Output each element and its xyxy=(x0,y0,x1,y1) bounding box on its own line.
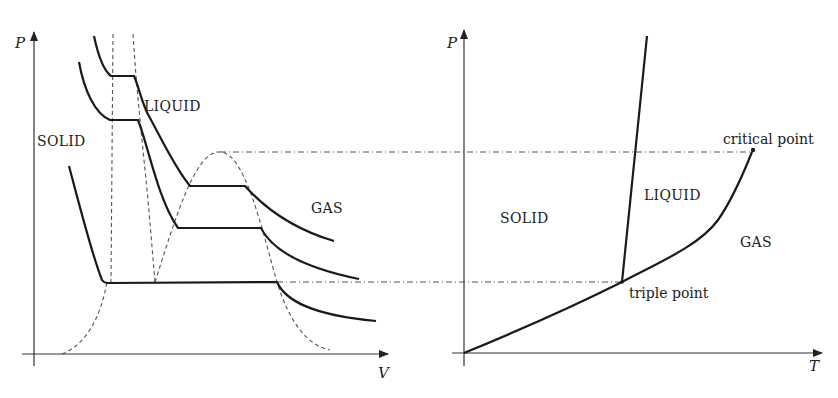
pt-vaporization-curve xyxy=(622,152,752,282)
pv-liquid-region-label: LIQUID xyxy=(144,98,201,114)
pv-pressure-label: P xyxy=(14,34,26,52)
critical-point-label: critical point xyxy=(723,131,814,147)
pt-pressure-label: P xyxy=(446,34,458,52)
critical-point-marker xyxy=(751,148,755,152)
pv-solid-boundary-curve xyxy=(62,282,107,354)
pv-volume-label: V xyxy=(378,364,391,382)
pv-isotherm-mid xyxy=(79,62,359,279)
pv-diagram: P V SOLID LIQUID GAS xyxy=(14,32,391,382)
pt-diagram: P T SOLID LIQUID GAS critical point trip… xyxy=(446,30,822,375)
pt-temperature-label: T xyxy=(809,357,820,375)
pt-fusion-curve xyxy=(622,36,647,282)
pv-isotherm-high xyxy=(94,36,334,241)
pv-isotherm-low xyxy=(69,166,376,321)
pv-gas-region-label: GAS xyxy=(311,200,343,216)
phase-diagrams: P V SOLID LIQUID GAS P T SOLID LIQUID GA… xyxy=(0,0,838,398)
pv-solid-region-label: SOLID xyxy=(37,133,86,149)
pt-sublimation-curve xyxy=(464,282,622,353)
pv-coexistence-dome xyxy=(155,152,330,350)
pt-solid-region-label: SOLID xyxy=(500,210,549,226)
pv-solid-boundary-dashed xyxy=(111,34,113,282)
pt-liquid-region-label: LIQUID xyxy=(644,187,701,203)
triple-point-label: triple point xyxy=(629,285,709,301)
triple-point-marker xyxy=(620,280,624,284)
pv-liquid-boundary-dashed xyxy=(133,34,136,76)
pt-gas-region-label: GAS xyxy=(740,234,772,250)
